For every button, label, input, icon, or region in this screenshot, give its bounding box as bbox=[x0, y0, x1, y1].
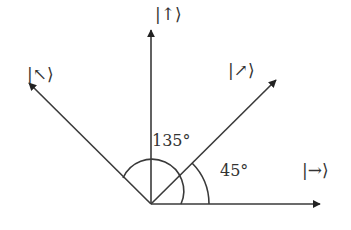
label-right: |→⟩ bbox=[302, 160, 329, 180]
label-up-left: |↖⟩ bbox=[27, 64, 54, 84]
angle-label-45: 45° bbox=[220, 161, 248, 180]
angle-label-135: 135° bbox=[152, 131, 191, 150]
label-up-right: |↗⟩ bbox=[228, 60, 255, 80]
label-up: |↑⟩ bbox=[155, 4, 182, 24]
angle-arc-45 bbox=[192, 163, 209, 204]
vector-up-left-arrow bbox=[29, 83, 151, 204]
polarization-diagram bbox=[0, 0, 351, 230]
